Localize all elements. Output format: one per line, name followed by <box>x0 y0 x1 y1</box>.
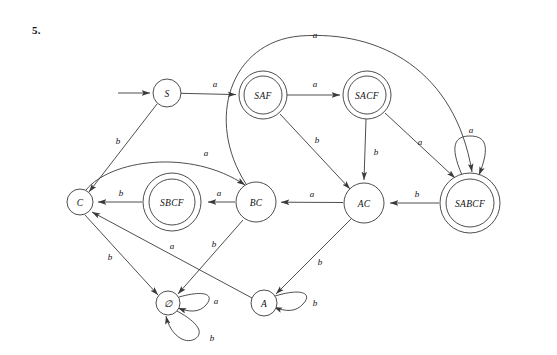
edge-label-a-self-b: b <box>313 298 318 308</box>
state-node-a[interactable]: A <box>251 290 277 316</box>
state-label-sabcf: SABCF <box>455 199 485 209</box>
edge-label-sacf-ac: b <box>374 147 379 157</box>
edge-label-c-bc: a <box>204 148 209 158</box>
state-node-saf[interactable]: SAF <box>239 71 287 119</box>
state-node-ac[interactable]: AC <box>344 183 384 223</box>
state-label-bc: BC <box>250 198 263 208</box>
edge-bc-empty <box>178 220 243 294</box>
edges-layer <box>85 35 485 340</box>
edge-label-s-saf: a <box>213 79 218 89</box>
edge-label-sabcf-ac: b <box>415 189 420 199</box>
state-node-sbcf[interactable]: SBCF <box>143 173 201 231</box>
edge-label-ac-a: b <box>318 257 323 267</box>
edge-label-bc-sbcf: a <box>217 188 222 198</box>
edge-label-bc-sabcf: a <box>313 30 318 40</box>
edge-empty-self-b <box>166 311 199 341</box>
edge-label-empty-self-b: b <box>210 333 215 343</box>
state-label-ac: AC <box>357 199 371 209</box>
edge-label-a-c: a <box>170 241 175 251</box>
edge-label-saf-sacf: a <box>313 79 318 89</box>
state-node-s[interactable]: S <box>153 79 181 107</box>
state-node-sabcf[interactable]: SABCF <box>440 173 500 233</box>
state-node-c[interactable]: C <box>67 189 93 215</box>
state-node-bc[interactable]: BC <box>236 182 276 222</box>
automaton-svg: S SAF SACF SABCF C <box>0 0 557 355</box>
edge-label-c-empty: b <box>108 252 113 262</box>
state-label-empty: ∅ <box>164 299 173 309</box>
edge-ac-a <box>276 219 351 294</box>
edge-saf-ac <box>280 114 350 189</box>
edge-label-empty-self-a: a <box>214 296 219 306</box>
state-node-empty[interactable]: ∅ <box>156 291 180 315</box>
diagram-canvas: 5. <box>0 0 557 355</box>
edge-label-saf-ac: b <box>315 135 320 145</box>
state-label-sacf: SACF <box>355 91 379 101</box>
nodes-layer: S SAF SACF SABCF C <box>67 71 500 316</box>
edge-label-bc-empty: b <box>212 239 217 249</box>
edge-label-sabcf-self-a: a <box>469 125 474 135</box>
edge-sacf-ac <box>364 119 366 180</box>
edge-label-ac-bc: a <box>310 189 315 199</box>
edge-label-s-c: b <box>116 136 121 146</box>
edge-a-self-b <box>274 292 307 310</box>
edge-empty-self-a <box>178 293 209 311</box>
state-label-sbcf: SBCF <box>160 198 184 208</box>
state-label-s: S <box>164 89 169 99</box>
edge-c-empty <box>85 215 158 295</box>
edge-sabcf-self-a <box>455 136 486 175</box>
edge-s-saf <box>181 93 236 94</box>
state-label-c: C <box>77 198 84 208</box>
state-label-saf: SAF <box>254 91 271 101</box>
state-node-sacf[interactable]: SACF <box>343 71 391 119</box>
edge-label-sacf-sabcf: a <box>418 137 423 147</box>
state-label-a: A <box>260 299 267 309</box>
edge-label-sbcf-c: b <box>119 188 124 198</box>
